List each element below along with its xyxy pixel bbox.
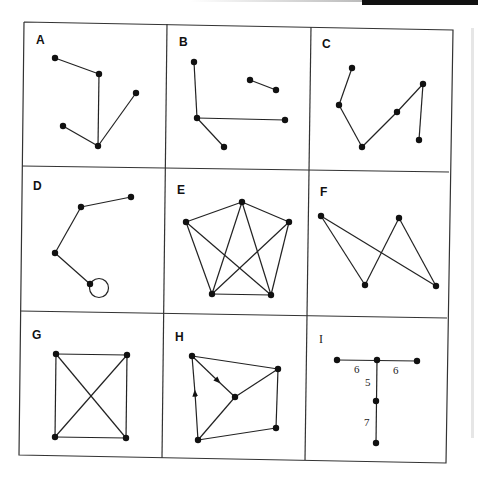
panel-label-a: A <box>36 33 45 47</box>
panel-g: G <box>32 328 130 441</box>
panel-label-h: H <box>175 330 184 344</box>
graph-g-edges <box>55 354 127 438</box>
panel-d: D <box>33 179 134 298</box>
panel-f: F <box>318 185 439 289</box>
edge-weight-lower-stem: 7 <box>364 416 370 428</box>
graph-a-nodes <box>52 55 139 149</box>
graph-grid-figure: A B C <box>0 0 478 493</box>
panel-a: A <box>36 33 139 149</box>
edge-weight-upper-stem: 5 <box>365 376 371 388</box>
panel-label-b: B <box>179 35 188 49</box>
graph-d-edges <box>55 197 131 298</box>
panel-label-c: C <box>322 37 331 51</box>
panel-label-f: F <box>320 185 327 199</box>
graph-f-edges <box>321 216 436 286</box>
graph-a-edges <box>55 58 136 146</box>
panel-h: H <box>175 330 281 443</box>
graph-b-nodes <box>191 59 288 150</box>
graph-b-edges <box>194 62 285 147</box>
panel-c: C <box>322 37 426 150</box>
panel-i: I 6 6 5 7 <box>319 332 420 446</box>
graph-c-edges <box>339 68 423 147</box>
self-loop <box>90 279 109 298</box>
panel-e: E <box>177 183 292 298</box>
panel-label-i: I <box>319 332 323 346</box>
graph-d-nodes <box>52 194 134 287</box>
panel-label-g: G <box>32 328 41 342</box>
directed-edge-arrow <box>195 393 198 440</box>
graph-e-nodes <box>183 199 292 298</box>
panel-b: B <box>179 35 288 150</box>
edge-weight-left: 6 <box>354 363 360 375</box>
graph-e-edges <box>186 202 289 295</box>
edge-weight-right: 6 <box>393 364 399 376</box>
panel-label-d: D <box>33 179 42 193</box>
graph-c-nodes <box>336 65 426 150</box>
panel-label-e: E <box>177 183 185 197</box>
